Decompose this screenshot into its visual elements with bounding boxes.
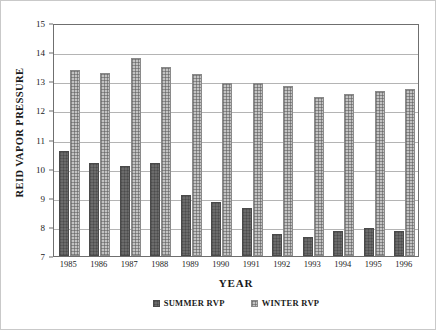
y-tick-label: 15 [36, 19, 45, 29]
bar-summer-rvp-1995 [364, 228, 374, 256]
x-axis-title: YEAR [53, 277, 419, 289]
bar-winter-rvp-1993 [314, 97, 324, 256]
y-tick-label: 12 [36, 106, 45, 116]
bar-winter-rvp-1986 [100, 73, 110, 256]
x-tick-label-1993: 1993 [304, 259, 321, 269]
y-tick-label: 13 [36, 77, 45, 87]
bar-summer-rvp-1990 [211, 202, 221, 256]
bar-summer-rvp-1988 [150, 163, 160, 256]
y-tick-label: 7 [41, 252, 46, 262]
bar-winter-rvp-1992 [283, 86, 293, 256]
y-tick-label: 8 [41, 223, 46, 233]
x-axis-tick-labels: 1985198619871988198919901991199219931994… [53, 259, 419, 275]
legend-item-winter-rvp[interactable]: WINTER RVP [251, 298, 320, 308]
x-tick-label-1989: 1989 [182, 259, 199, 269]
bar-summer-rvp-1991 [242, 208, 252, 256]
x-tick-label-1992: 1992 [273, 259, 290, 269]
bar-winter-rvp-1988 [161, 67, 171, 256]
bar-summer-rvp-1989 [181, 195, 191, 256]
bar-winter-rvp-1985 [70, 70, 80, 256]
plot-area [53, 24, 419, 257]
x-tick-label-1986: 1986 [90, 259, 107, 269]
legend-item-summer-rvp[interactable]: SUMMER RVP [153, 298, 225, 308]
bar-summer-rvp-1986 [89, 163, 99, 256]
bar-summer-rvp-1996 [394, 231, 404, 256]
bar-summer-rvp-1994 [333, 231, 343, 256]
x-tick-label-1995: 1995 [365, 259, 382, 269]
bar-winter-rvp-1987 [131, 58, 141, 256]
bar-winter-rvp-1996 [405, 89, 415, 256]
bar-summer-rvp-1993 [303, 237, 313, 256]
y-axis-ticks: 789101112131415 [1, 24, 53, 257]
legend-swatch-icon [251, 300, 258, 307]
bar-winter-rvp-1991 [253, 83, 263, 256]
bar-winter-rvp-1995 [375, 91, 385, 256]
chart-figure: REID VAPOR PRESSURE 789101112131415 1985… [0, 0, 436, 330]
bar-summer-rvp-1985 [59, 151, 69, 256]
x-tick-label-1994: 1994 [334, 259, 351, 269]
chart-legend: SUMMER RVPWINTER RVP [53, 298, 419, 308]
x-tick-label-1991: 1991 [243, 259, 260, 269]
bar-summer-rvp-1992 [272, 234, 282, 256]
y-tick-label: 14 [36, 48, 45, 58]
y-tick-label: 9 [41, 194, 46, 204]
legend-swatch-icon [153, 300, 160, 307]
legend-label: WINTER RVP [262, 298, 320, 308]
x-tick-label-1996: 1996 [395, 259, 412, 269]
x-tick-label-1985: 1985 [60, 259, 77, 269]
bar-winter-rvp-1989 [192, 74, 202, 256]
x-tick-label-1987: 1987 [121, 259, 138, 269]
bar-winter-rvp-1994 [344, 94, 354, 256]
bar-winter-rvp-1990 [222, 83, 232, 256]
y-tick-label: 11 [36, 136, 45, 146]
legend-label: SUMMER RVP [164, 298, 225, 308]
y-tick-label: 10 [36, 165, 45, 175]
bars-layer [54, 25, 418, 256]
bar-summer-rvp-1987 [120, 166, 130, 256]
x-tick-label-1990: 1990 [212, 259, 229, 269]
x-tick-label-1988: 1988 [151, 259, 168, 269]
